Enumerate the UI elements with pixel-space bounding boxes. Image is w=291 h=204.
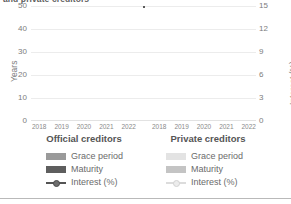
gridline-20 xyxy=(31,75,256,76)
y-tick-left-50: 50 xyxy=(5,2,27,10)
legend-label-official-grace: Grace period xyxy=(71,151,123,162)
x-axis-line xyxy=(31,120,256,121)
x-tick-official-2022: 2022 xyxy=(122,122,136,131)
y-tick-left-0: 0 xyxy=(5,117,27,125)
legend-item-official-interest[interactable]: Interest (%) xyxy=(46,176,123,189)
legend-line-marker-icon-private-interest xyxy=(166,179,186,186)
y-tick-right-6: 6 xyxy=(259,71,281,79)
y-axis-label-left: Years xyxy=(9,61,19,82)
legend-private: Grace period Maturity Interest (%) xyxy=(166,150,243,189)
x-tick-official-2018: 2018 xyxy=(32,122,46,131)
y-tick-right-0: 0 xyxy=(259,117,281,125)
legend-item-official-grace[interactable]: Grace period xyxy=(46,150,123,163)
legend-label-official-interest: Interest (%) xyxy=(71,177,118,188)
y-tick-left-30: 30 xyxy=(5,48,27,56)
x-tick-private-2019: 2019 xyxy=(174,122,188,131)
x-axis-ticks-official: 2018 2019 2020 2021 2022 xyxy=(32,122,136,131)
gridline-10 xyxy=(31,98,256,99)
legend-label-official-maturity: Maturity xyxy=(71,164,103,175)
x-tick-official-2019: 2019 xyxy=(54,122,68,131)
chart-figure: and private creditors 50 40 30 20 10 0 1… xyxy=(0,0,291,204)
x-tick-private-2018: 2018 xyxy=(152,122,166,131)
x-tick-private-2020: 2020 xyxy=(197,122,211,131)
x-tick-official-2020: 2020 xyxy=(77,122,91,131)
legend-swatch-icon-official-grace xyxy=(46,153,66,160)
stray-data-marker xyxy=(143,6,145,8)
legend-item-private-maturity[interactable]: Maturity xyxy=(166,163,243,176)
y-tick-right-9: 9 xyxy=(259,48,281,56)
bottom-divider xyxy=(0,198,291,199)
legend-item-private-interest[interactable]: Interest (%) xyxy=(166,176,243,189)
y-axis-label-right: Interest (%) xyxy=(288,61,291,105)
panel-title-official: Official creditors xyxy=(22,133,146,144)
x-axis-ticks-private: 2018 2019 2020 2021 2022 xyxy=(152,122,256,131)
plot-area xyxy=(31,6,256,121)
legend-label-private-maturity: Maturity xyxy=(191,164,223,175)
legend-item-private-grace[interactable]: Grace period xyxy=(166,150,243,163)
panel-title-private: Private creditors xyxy=(146,133,270,144)
legend-item-official-maturity[interactable]: Maturity xyxy=(46,163,123,176)
legend-line-marker-icon-official-interest xyxy=(46,179,66,186)
x-tick-private-2022: 2022 xyxy=(242,122,256,131)
legend-swatch-icon-private-maturity xyxy=(166,166,186,173)
legend-label-private-interest: Interest (%) xyxy=(191,177,238,188)
y-tick-right-15: 15 xyxy=(259,2,281,10)
y-tick-left-10: 10 xyxy=(5,94,27,102)
x-tick-private-2021: 2021 xyxy=(219,122,233,131)
legend-official: Grace period Maturity Interest (%) xyxy=(46,150,123,189)
gridline-30 xyxy=(31,52,256,53)
y-tick-right-12: 12 xyxy=(259,25,281,33)
gridline-40 xyxy=(31,29,256,30)
legend-swatch-icon-official-maturity xyxy=(46,166,66,173)
legend-label-private-grace: Grace period xyxy=(191,151,243,162)
x-tick-official-2021: 2021 xyxy=(99,122,113,131)
y-tick-left-40: 40 xyxy=(5,25,27,33)
y-tick-right-3: 3 xyxy=(259,94,281,102)
legend-swatch-icon-private-grace xyxy=(166,153,186,160)
